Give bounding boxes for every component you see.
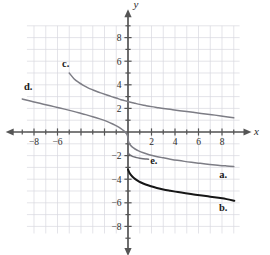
y-tick-label: −2	[111, 151, 121, 161]
graph-figure: −8−62468−8−6−4−22468 c.d.a.e.b. xy	[0, 0, 270, 255]
coordinate-plane: −8−62468−8−6−4−22468 c.d.a.e.b. xy	[0, 0, 270, 255]
y-axis-arrow-down	[124, 248, 131, 255]
grid-lines	[27, 26, 240, 234]
y-axis-arrow-up	[124, 9, 131, 17]
y-tick-label: 6	[117, 57, 122, 67]
x-tick-label: 2	[149, 137, 154, 147]
curve-label-b: b.	[219, 202, 228, 213]
y-tick-label: −8	[111, 222, 121, 232]
curve-label-e: e.	[150, 155, 158, 166]
curve-label-a: a.	[219, 169, 227, 180]
curve-label-d: d.	[24, 81, 33, 92]
x-tick-label: −8	[29, 137, 39, 147]
x-axis-arrow-left	[6, 128, 14, 135]
x-tick-label: −6	[52, 137, 62, 147]
x-tick-label: 8	[220, 137, 225, 147]
y-tick-label: 8	[117, 33, 122, 43]
y-tick-label: 4	[117, 80, 122, 90]
axes	[6, 9, 252, 255]
curve-label-c: c.	[62, 58, 70, 69]
y-tick-label: 2	[117, 104, 122, 114]
y-axis-name: y	[133, 0, 139, 10]
x-axis-name: x	[253, 125, 259, 137]
curve-labels: c.d.a.e.b.	[24, 58, 228, 213]
x-tick-label: 6	[196, 137, 201, 147]
y-tick-label: −4	[111, 175, 121, 185]
x-tick-label: 4	[173, 137, 178, 147]
y-tick-label: −6	[111, 198, 121, 208]
x-axis-arrow-right	[244, 128, 252, 135]
